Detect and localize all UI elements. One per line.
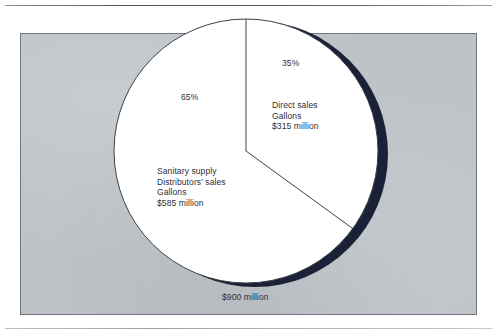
page-rule-top [5, 5, 492, 6]
pie-slice-label-direct-sales: Direct sales Gallons $315 million [272, 100, 319, 132]
panel-paper-texture [21, 34, 476, 314]
pie-slice-label-distributors-sales: Sanitary supply Distributors' sales Gall… [157, 166, 226, 208]
pie-chart-panel [20, 33, 477, 315]
pie-slice-percent-distributors-sales: 65% [181, 92, 198, 103]
page-rule-bottom [5, 328, 492, 329]
pie-total-caption: $900 million [222, 292, 269, 303]
pie-slice-percent-direct-sales: 35% [282, 58, 299, 69]
